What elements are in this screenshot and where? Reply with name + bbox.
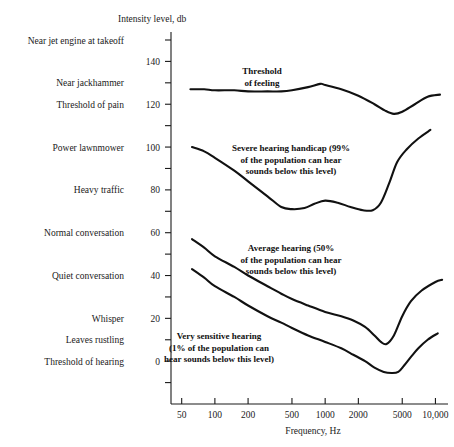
y-axis-title: Intensity level, db <box>118 14 187 24</box>
curve-threshold-of-feeling <box>190 84 440 114</box>
x-axis-tick-label: 500 <box>285 410 300 420</box>
sound-source-label: Leaves rustling <box>66 335 125 345</box>
y-axis-tick-label: 100 <box>146 143 161 153</box>
x-axis-tick-label: 100 <box>208 410 223 420</box>
sound-source-label: Threshold of pain <box>56 100 124 110</box>
sound-source-label: Whisper <box>92 314 125 324</box>
y-axis-tick-label: 40 <box>151 271 161 281</box>
x-axis-tick-label: 1000 <box>316 410 335 420</box>
sound-source-label: Quiet conversation <box>52 271 124 281</box>
chart-page: 140120100806040200 501002005001000200050… <box>0 0 454 447</box>
x-axis-tick-label: 50 <box>177 410 187 420</box>
y-axis-tick-label: 140 <box>146 57 161 67</box>
annotation-average-hearing: Average hearing (50%of the population ca… <box>240 243 341 276</box>
y-axis: 140120100806040200 <box>146 32 171 404</box>
x-axis-tick-label: 200 <box>241 410 256 420</box>
hearing-threshold-chart: 140120100806040200 501002005001000200050… <box>0 0 454 447</box>
x-axis-tick-label: 2000 <box>349 410 368 420</box>
annotation-severe-hearing-handicap: Severe hearing handicap (99%of the popul… <box>232 143 350 176</box>
y-axis-tick-label: 120 <box>146 100 161 110</box>
y-axis-tick-label: 80 <box>151 185 161 195</box>
x-axis-tick-label: 5000 <box>393 410 412 420</box>
y-axis-tick-label: 60 <box>151 228 161 238</box>
x-axis-tick-label: 10,000 <box>422 410 448 420</box>
x-axis: 5010020050010002000500010,000 <box>171 398 449 420</box>
y-axis-tick-label: 20 <box>151 314 161 324</box>
sound-source-label: Threshold of hearing <box>44 357 124 367</box>
sound-source-label: Near jet engine at takeoff <box>28 36 125 46</box>
sound-source-labels: Near jet engine at takeoffNear jackhamme… <box>28 36 125 367</box>
sound-source-label: Normal conversation <box>44 228 124 238</box>
annotation-threshold-of-feeling: Thresholdof feeling <box>242 66 281 88</box>
sound-source-label: Power lawnmower <box>53 143 125 153</box>
x-axis-title: Frequency, Hz <box>285 426 340 436</box>
annotation-group: Thresholdof feelingSevere hearing handic… <box>164 66 350 364</box>
annotation-very-sensitive-hearing: Very sensitive hearing(1% of the populat… <box>164 331 274 364</box>
y-axis-tick-label: 0 <box>155 357 160 367</box>
sound-source-label: Near jackhammer <box>56 78 125 88</box>
curve-series-group <box>190 84 442 373</box>
sound-source-label: Heavy traffic <box>74 185 124 195</box>
